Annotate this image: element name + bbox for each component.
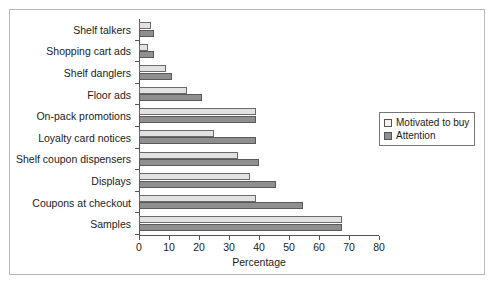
x-axis-tick-label: 70 <box>343 241 355 253</box>
legend-label-attention: Attention <box>396 129 435 142</box>
bar-attention <box>139 224 342 231</box>
legend-label-motivated-to-buy: Motivated to buy <box>396 116 469 129</box>
legend-item-motivated-to-buy: Motivated to buy <box>384 116 469 129</box>
bar-motivated-to-buy <box>139 22 151 29</box>
legend-item-attention: Attention <box>384 129 469 142</box>
bar-group <box>139 62 378 84</box>
category-row: Displays <box>139 170 378 192</box>
bar-attention <box>139 181 276 188</box>
x-axis-tick <box>169 236 170 240</box>
legend-swatch-icon-motivated-to-buy <box>384 119 392 127</box>
category-label: Shelf coupon dispensers <box>16 153 131 165</box>
category-row: Floor ads <box>139 84 378 106</box>
bar-group <box>139 127 378 149</box>
category-label: Floor ads <box>87 89 131 101</box>
category-row: Shelf talkers <box>139 19 378 41</box>
x-axis-tick <box>229 236 230 240</box>
bar-motivated-to-buy <box>139 173 250 180</box>
bar-group <box>139 149 378 171</box>
x-axis-tick <box>139 236 140 240</box>
x-axis-ticks: 01020304050607080 <box>139 236 379 256</box>
x-axis-tick <box>199 236 200 240</box>
x-axis-tick-label: 80 <box>373 241 385 253</box>
x-axis-tick-label: 20 <box>193 241 205 253</box>
bar-motivated-to-buy <box>139 216 342 223</box>
chart-figure: Retailers' views on in-store media Shelf… <box>0 0 495 286</box>
bar-motivated-to-buy <box>139 108 256 115</box>
bar-group <box>139 84 378 106</box>
bar-motivated-to-buy <box>139 152 238 159</box>
bar-group <box>139 105 378 127</box>
bar-group <box>139 192 378 214</box>
bar-group <box>139 19 378 41</box>
x-axis-tick <box>319 236 320 240</box>
bar-motivated-to-buy <box>139 195 256 202</box>
x-axis-tick <box>379 236 380 240</box>
x-axis-tick-label: 10 <box>163 241 175 253</box>
x-axis-tick <box>259 236 260 240</box>
category-row: Coupons at checkout <box>139 192 378 214</box>
category-row: Samples <box>139 213 378 235</box>
plot-area: Shelf talkersShopping cart adsShelf dang… <box>139 19 378 235</box>
category-row: Shelf coupon dispensers <box>139 149 378 171</box>
x-axis-tick-label: 0 <box>136 241 142 253</box>
category-label: Samples <box>90 218 131 230</box>
category-row: Loyalty card notices <box>139 127 378 149</box>
chart-legend: Motivated to buy Attention <box>379 112 475 146</box>
bar-attention <box>139 73 172 80</box>
bar-motivated-to-buy <box>139 44 148 51</box>
bar-group <box>139 170 378 192</box>
x-axis-tick <box>289 236 290 240</box>
bar-attention <box>139 137 256 144</box>
category-row: Shelf danglers <box>139 62 378 84</box>
category-label: Displays <box>91 175 131 187</box>
bar-motivated-to-buy <box>139 65 166 72</box>
x-axis-tick-label: 60 <box>313 241 325 253</box>
bar-attention <box>139 51 154 58</box>
bar-motivated-to-buy <box>139 130 214 137</box>
x-axis-tick-label: 40 <box>253 241 265 253</box>
category-row: Shopping cart ads <box>139 41 378 63</box>
bar-attention <box>139 30 154 37</box>
category-label: Coupons at checkout <box>32 197 131 209</box>
bar-attention <box>139 94 202 101</box>
category-label: Shopping cart ads <box>46 45 131 57</box>
category-label: Shelf talkers <box>73 24 131 36</box>
x-axis-tick <box>349 236 350 240</box>
category-rows: Shelf talkersShopping cart adsShelf dang… <box>139 19 378 235</box>
bar-attention <box>139 202 303 209</box>
category-label: Loyalty card notices <box>38 132 131 144</box>
bar-group <box>139 213 378 235</box>
bar-attention <box>139 116 256 123</box>
bar-motivated-to-buy <box>139 87 187 94</box>
category-row: On-pack promotions <box>139 105 378 127</box>
legend-swatch-icon-attention <box>384 132 392 140</box>
x-axis-tick-label: 30 <box>223 241 235 253</box>
x-axis-tick-label: 50 <box>283 241 295 253</box>
category-label: Shelf danglers <box>64 67 131 79</box>
x-axis-title: Percentage <box>139 256 379 268</box>
category-label: On-pack promotions <box>36 110 131 122</box>
bar-attention <box>139 159 259 166</box>
bar-group <box>139 41 378 63</box>
